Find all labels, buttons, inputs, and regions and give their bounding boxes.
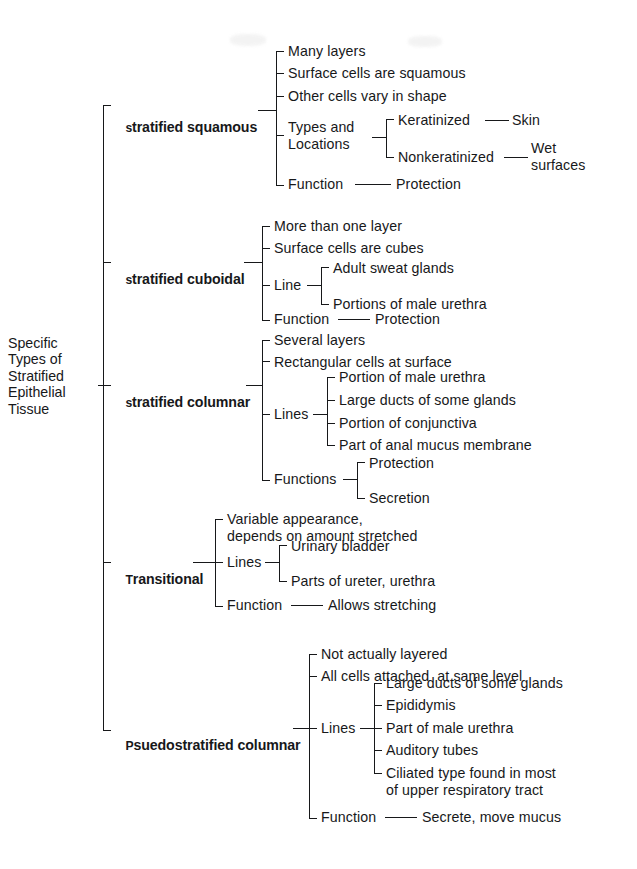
- connector-function-b5: [385, 817, 417, 818]
- bracket-lines-b5-tick-2: [374, 705, 382, 706]
- branch-label-initial: T: [125, 573, 132, 587]
- leaf-surface-cells-cubes: Surface cells are cubes: [274, 240, 424, 257]
- connector-function-b4: [291, 605, 323, 606]
- branch-label-transitional: Transitional: [110, 554, 203, 605]
- bracket-b1-tick-3: [276, 96, 284, 97]
- group-function-b5: Function: [321, 809, 376, 826]
- group-function-b1: Function: [288, 176, 343, 193]
- leaf-other-cells-vary: Other cells vary in shape: [288, 88, 447, 105]
- leaf-urinary-bladder: Urinary bladder: [291, 538, 390, 555]
- connector-function-protection-b2: [338, 319, 370, 320]
- branch-label-stratified-columnar: stratified columnar: [110, 377, 250, 428]
- connector-b2: [244, 262, 262, 263]
- bracket-lines-b4-cap-top: [279, 545, 287, 546]
- bracket-line-b2-cap-bottom: [321, 304, 329, 305]
- group-lines-b3: Lines: [274, 406, 308, 423]
- taxonomy-diagram: Specific Types of Stratified Epithelial …: [0, 0, 637, 869]
- leaf-ciliated-type: Ciliated type found in most of upper res…: [386, 765, 556, 798]
- bracket-b5-cap-bottom: [309, 818, 317, 819]
- leaf-wet-surfaces: Wet surfaces: [531, 140, 585, 173]
- scan-artifact: [408, 36, 442, 47]
- bracket-functions-b3-cap-bottom: [357, 498, 365, 499]
- leaf-portion-conjunctiva: Portion of conjunctiva: [339, 415, 477, 432]
- bracket-types-locations: [386, 119, 387, 157]
- leaf-adult-sweat-glands: Adult sweat glands: [333, 260, 454, 277]
- bracket-lines-b4: [279, 545, 280, 581]
- bracket-lines-b5-tick-3: [374, 728, 382, 729]
- group-functions-b3: Functions: [274, 471, 336, 488]
- bracket-functions-b3-cap-top: [357, 462, 365, 463]
- bracket-lines-b5-cap-top: [374, 683, 382, 684]
- connector-nonkeratinized-wet: [504, 157, 528, 158]
- bracket-lines-b3-cap-bottom: [327, 445, 335, 446]
- bracket-b2-cap-bottom: [262, 320, 270, 321]
- bracket-b1-tick-2: [276, 73, 284, 74]
- bracket-line-b2: [321, 267, 322, 304]
- bracket-b5-cap-top: [309, 654, 317, 655]
- bracket-lines-b3: [327, 377, 328, 445]
- connector-b1: [258, 110, 276, 111]
- leaf-large-ducts-b3: Large ducts of some glands: [339, 392, 516, 409]
- group-types-and-locations: Types and Locations: [288, 119, 354, 152]
- bracket-b4-tick-2: [215, 562, 223, 563]
- bracket-lines-b5-tick-4: [374, 750, 382, 751]
- bracket-b2-tick-3: [262, 285, 270, 286]
- bracket-functions-b3: [357, 462, 358, 498]
- bracket-line-b2-cap-top: [321, 267, 329, 268]
- leaf-secretion-b3: Secretion: [369, 490, 430, 507]
- branch-label-stratified-squamous: stratified squamous: [110, 102, 257, 153]
- leaf-part-male-urethra-b5: Part of male urethra: [386, 720, 513, 737]
- trunk-line: [103, 105, 104, 730]
- bracket-b5: [309, 654, 310, 818]
- group-lines-b5: Lines: [321, 720, 355, 737]
- leaf-skin: Skin: [512, 112, 540, 129]
- bracket-lines-b5-cap-bottom: [374, 773, 382, 774]
- connector-lines-b5: [360, 728, 374, 729]
- leaf-secrete-move-mucus: Secrete, move mucus: [422, 809, 561, 826]
- leaf-large-ducts-b5: Large ducts of some glands: [386, 675, 563, 692]
- bracket-b4-cap-bottom: [215, 606, 223, 607]
- bracket-b2-cap-top: [262, 226, 270, 227]
- leaf-protection-b2: Protection: [375, 311, 440, 328]
- group-function-b4: Function: [227, 597, 282, 614]
- bracket-b3-cap-top: [262, 340, 270, 341]
- bracket-b1-cap-bottom: [276, 185, 284, 186]
- bracket-b1: [276, 51, 277, 185]
- bracket-b4-cap-top: [215, 519, 223, 520]
- leaf-epididymis: Epididymis: [386, 697, 456, 714]
- branch-label-rest: ransitional: [133, 571, 204, 587]
- bracket-b3-tick-3: [262, 414, 270, 415]
- bracket-b5-tick-3: [309, 728, 317, 729]
- bracket-tl-cap-bottom: [386, 157, 394, 158]
- leaf-several-layers: Several layers: [274, 332, 365, 349]
- connector-b4: [193, 562, 215, 563]
- bracket-lines-b4-cap-bottom: [279, 581, 287, 582]
- leaf-auditory-tubes: Auditory tubes: [386, 742, 478, 759]
- bracket-lines-b3-tick-2: [327, 400, 335, 401]
- bracket-b2: [262, 226, 263, 320]
- branch-label-rest: tratified squamous: [132, 119, 257, 135]
- bracket-b3-cap-bottom: [262, 480, 270, 481]
- connector-functions-b3: [343, 479, 357, 480]
- branch-label-stratified-cuboidal: stratified cuboidal: [110, 254, 245, 305]
- leaf-many-layers: Many layers: [288, 43, 366, 60]
- bracket-b1-cap-top: [276, 51, 284, 52]
- leaf-protection-b3: Protection: [369, 455, 434, 472]
- connector-keratinized-skin: [485, 120, 509, 121]
- branch-label-rest: tratified cuboidal: [132, 271, 245, 287]
- branch-label-rest: suedostratified columnar: [133, 737, 300, 753]
- leaf-allows-stretching: Allows stretching: [328, 597, 436, 614]
- group-lines-b4: Lines: [227, 554, 261, 571]
- bracket-tl-cap-top: [386, 119, 394, 120]
- leaf-part-anal-mucus: Part of anal mucus membrane: [339, 437, 532, 454]
- connector-types-locations: [372, 137, 386, 138]
- connector-line-b2: [307, 285, 321, 286]
- group-line-b2: Line: [274, 277, 301, 294]
- leaf-parts-ureter-urethra: Parts of ureter, urethra: [291, 573, 435, 590]
- connector-b5: [293, 728, 309, 729]
- bracket-b5-tick-2: [309, 676, 317, 677]
- leaf-keratinized: Keratinized: [398, 112, 470, 129]
- connector-function-protection-b1: [355, 184, 391, 185]
- bracket-lines-b3-cap-top: [327, 377, 335, 378]
- branch-label-psuedostratified-columnar: Psuedostratified columnar: [110, 720, 301, 771]
